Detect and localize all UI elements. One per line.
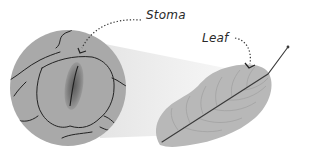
leaf-label: Leaf: [202, 31, 228, 45]
magnified-stoma-circle: [10, 30, 126, 146]
leaf-pointer: [235, 38, 255, 68]
stoma-leaf-diagram: Stoma Leaf: [0, 0, 309, 158]
stoma-label: Stoma: [146, 8, 186, 22]
diagram-graphic: [0, 0, 309, 158]
